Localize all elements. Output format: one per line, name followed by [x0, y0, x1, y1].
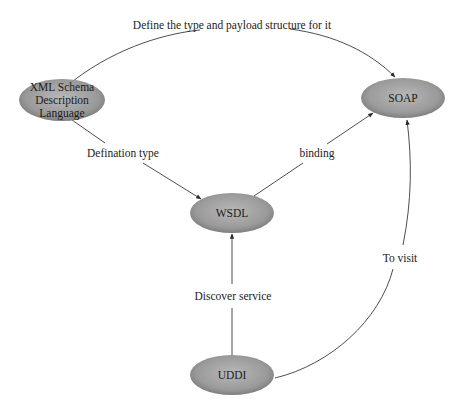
node-wsdl[interactable]: WSDL: [190, 193, 274, 233]
edge-label-discover: Discover service: [195, 290, 272, 302]
node-soap[interactable]: SOAP: [361, 78, 445, 118]
diagram-canvas: Define the type and payload structure fo…: [0, 0, 465, 411]
node-xml-schema-label-line1: XML Schema: [30, 81, 94, 93]
edge-uddi-to-soap-b: [403, 120, 410, 245]
edge-xml-to-wsdl-a: [72, 120, 105, 143]
edge-wsdl-to-soap-a: [254, 163, 303, 196]
edge-label-define: Define the type and payload structure fo…: [133, 19, 332, 32]
node-wsdl-label: WSDL: [216, 207, 249, 219]
node-xml-schema-label-line2: Description: [35, 94, 89, 107]
edge-uddi-to-soap-a: [275, 269, 393, 378]
edge-xml-to-wsdl-b: [143, 163, 201, 199]
edge-wsdl-to-soap-b: [327, 113, 373, 144]
node-uddi[interactable]: UDDI: [190, 355, 274, 395]
node-uddi-label: UDDI: [218, 369, 247, 381]
node-xml-schema-label-line3: Language: [39, 107, 84, 120]
node-soap-label: SOAP: [388, 92, 417, 104]
edge-label-visit: To visit: [383, 252, 418, 264]
edge-label-binding: binding: [299, 147, 334, 160]
edge-label-defination: Defination type: [87, 147, 159, 160]
edge-xml-to-soap: [73, 29, 395, 81]
node-xml-schema[interactable]: XML Schema Description Language: [19, 79, 105, 121]
